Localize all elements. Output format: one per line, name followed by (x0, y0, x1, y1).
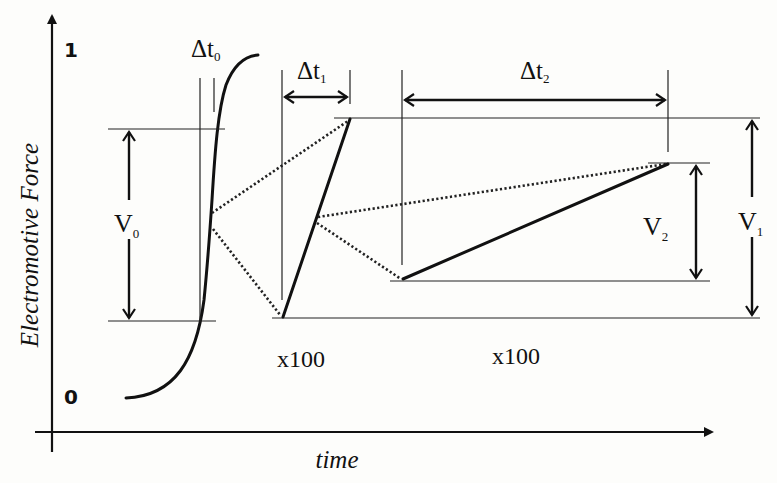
dt0-label: Δt0 (191, 35, 221, 64)
diagram-canvas: 1 0 Electromotive Force time Δt0 V0 Δt1 (0, 0, 777, 483)
emf-time-diagram: 1 0 Electromotive Force time Δt0 V0 Δt1 (0, 0, 777, 483)
panel-1-ramp (283, 119, 350, 317)
panel-2-guides (390, 70, 710, 281)
zoom-lines-1 (212, 121, 348, 316)
magnification-label-2: x100 (492, 343, 540, 369)
y-axis-label: Electromotive Force (16, 143, 43, 348)
y-tick-bottom: 0 (64, 385, 78, 409)
dt1-label: Δt1 (297, 57, 327, 86)
v0-label: V0 (114, 209, 139, 241)
v2-label: V2 (643, 212, 668, 244)
magnification-label-1: x100 (277, 346, 325, 372)
zoom-lines-2 (317, 164, 666, 279)
sigmoid-curve (126, 55, 258, 398)
y-tick-top: 1 (64, 38, 78, 62)
dt2-label: Δt2 (520, 57, 550, 86)
x-axis-label: time (315, 446, 358, 473)
v1-label: V1 (738, 207, 763, 239)
panel-2-ramp (403, 164, 668, 279)
